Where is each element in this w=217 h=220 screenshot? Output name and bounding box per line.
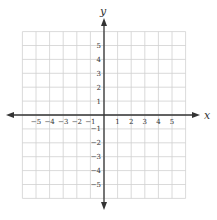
y-tick-label: 5: [97, 42, 101, 50]
y-axis-label: y: [99, 5, 107, 18]
x-tick-label: −4: [44, 118, 55, 126]
y-tick-label: 4: [97, 56, 102, 64]
axes: [6, 18, 200, 210]
y-tick-label: 3: [97, 70, 101, 78]
y-axis-up-arrow-icon: [101, 18, 107, 26]
x-tick-label: −5: [31, 118, 41, 126]
x-tick-label: 3: [143, 118, 147, 126]
x-axis-left-arrow-icon: [6, 112, 14, 118]
x-axis-label: x: [204, 109, 211, 122]
y-tick-label: −1: [91, 125, 101, 133]
x-tick-label: −3: [58, 118, 68, 126]
y-tick-label: −5: [91, 181, 101, 189]
y-tick-label: −2: [91, 139, 101, 147]
coordinate-plane: −5−4−3−2−112345 54321−1−2−3−4−5 x y: [0, 0, 217, 220]
x-tick-label: 4: [156, 118, 161, 126]
y-tick-label: −4: [91, 167, 102, 175]
x-tick-label: 1: [115, 118, 119, 126]
x-tick-label: −2: [72, 118, 82, 126]
y-tick-label: −3: [91, 153, 101, 161]
x-tick-label: 5: [170, 118, 174, 126]
x-axis-right-arrow-icon: [192, 112, 200, 118]
y-axis-down-arrow-icon: [101, 202, 107, 210]
x-tick-label: 2: [129, 118, 133, 126]
x-tick-labels: −5−4−3−2−112345: [31, 118, 174, 126]
y-tick-label: 1: [97, 98, 101, 106]
y-tick-label: 2: [97, 84, 101, 92]
